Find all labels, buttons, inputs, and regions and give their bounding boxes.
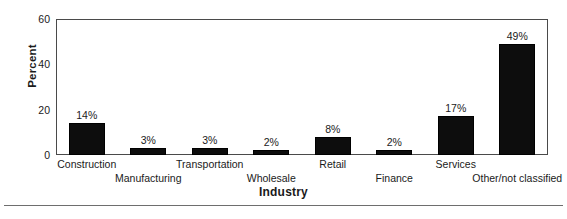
bar-group[interactable]: 3% [192, 19, 228, 155]
bar-value-label: 49% [507, 31, 528, 42]
bar-value-label: 3% [141, 135, 156, 146]
y-tick-label: 60 [24, 14, 50, 24]
bar[interactable] [192, 148, 228, 155]
bar[interactable] [499, 44, 535, 155]
x-category-label: Manufacturing [115, 172, 182, 184]
x-axis-title: Industry [0, 185, 567, 199]
bar-group[interactable]: 2% [253, 19, 289, 155]
x-category-label: Other/not classified [472, 172, 562, 184]
bar[interactable] [438, 116, 474, 155]
bar-group[interactable]: 2% [376, 19, 412, 155]
bar[interactable] [69, 123, 105, 155]
bar[interactable] [376, 150, 412, 155]
bar-group[interactable]: 49% [499, 19, 535, 155]
y-tick-label: 20 [24, 105, 50, 115]
x-category-label: Construction [57, 158, 116, 170]
x-category-label: Transportation [176, 158, 243, 170]
bar-value-label: 2% [264, 137, 279, 148]
bar-value-label: 3% [202, 135, 217, 146]
y-tick-label: 0 [24, 150, 50, 160]
bars-layer: 14%3%3%2%8%2%17%49% [56, 19, 548, 155]
x-category-label: Retail [319, 158, 346, 170]
footer-divider [4, 205, 563, 206]
bar-value-label: 2% [387, 137, 402, 148]
x-category-label: Wholesale [247, 172, 296, 184]
bar-group[interactable]: 8% [315, 19, 351, 155]
bar-value-label: 8% [325, 124, 340, 135]
x-category-label: Services [436, 158, 476, 170]
bar[interactable] [315, 137, 351, 155]
y-tick-label: 40 [24, 59, 50, 69]
bar-group[interactable]: 14% [69, 19, 105, 155]
bar-group[interactable]: 3% [130, 19, 166, 155]
bar-value-label: 14% [76, 110, 97, 121]
bar-value-label: 17% [445, 103, 466, 114]
bar-group[interactable]: 17% [438, 19, 474, 155]
x-category-label: Finance [376, 172, 413, 184]
bar[interactable] [253, 150, 289, 155]
bar[interactable] [130, 148, 166, 155]
bar-chart-figure: Percent 0204060 14%3%3%2%8%2%17%49% Cons… [0, 0, 567, 219]
